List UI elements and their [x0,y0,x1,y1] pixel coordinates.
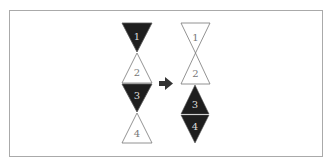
before-column: 1 2 3 4 [122,23,152,143]
after-label-2: 2 [192,68,198,79]
after-column: 1 2 3 4 [181,23,210,143]
after-label-3: 3 [192,99,198,110]
before-label-4: 4 [134,128,140,139]
after-label-4: 4 [192,121,198,132]
before-label-2: 2 [134,67,140,78]
before-label-3: 3 [134,90,140,101]
before-label-1: 1 [134,31,140,42]
triangle-diagram: 1 2 3 4 1 2 3 4 [0,0,334,165]
arrow-right-icon [159,77,173,90]
after-label-1: 1 [192,32,198,43]
